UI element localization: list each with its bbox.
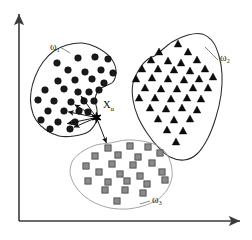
data-point-triangle <box>193 56 201 63</box>
data-point-circle <box>82 69 89 76</box>
data-point-triangle <box>148 74 156 81</box>
data-point-square <box>124 178 130 184</box>
omega3-leader <box>140 201 150 204</box>
cluster-scatter-plot: ω₁ω₂ω₃Xu <box>0 0 252 240</box>
data-point-circle <box>110 70 117 77</box>
data-point-circle <box>51 98 58 105</box>
data-point-triangle <box>201 65 209 72</box>
class-label-omega1: ω₁ <box>50 41 60 52</box>
data-point-circle <box>55 119 62 126</box>
data-point-circle <box>47 126 54 133</box>
data-point-triangle <box>178 104 186 111</box>
data-point-circle <box>68 99 75 106</box>
query-point-label: Xu <box>103 99 115 113</box>
data-point-triangle <box>180 76 188 83</box>
data-point-circle <box>101 80 108 87</box>
data-point-triangle <box>170 66 178 73</box>
data-point-triangle <box>172 138 180 145</box>
data-point-circle <box>75 89 82 96</box>
class-label-omega3: ω₃ <box>152 194 162 205</box>
neighbor-arrow-4 <box>67 118 96 124</box>
neighbor-arrow-6 <box>97 118 107 144</box>
data-point-triangle <box>146 104 154 111</box>
data-point-triangle <box>184 48 192 55</box>
data-point-circle <box>35 97 42 104</box>
data-point-triangle <box>179 127 187 134</box>
data-point-square <box>130 162 136 168</box>
data-point-circle <box>91 98 98 105</box>
data-point-circle <box>98 67 105 74</box>
data-point-triangle <box>183 94 191 101</box>
data-point-square <box>145 144 151 150</box>
data-point-triangle <box>195 75 203 82</box>
data-point-square <box>115 152 121 158</box>
data-point-triangle <box>157 85 165 92</box>
query-point-label-subscript: u <box>111 105 115 113</box>
data-point-circle <box>65 67 72 74</box>
omega1-leader <box>60 47 70 53</box>
data-point-triangle <box>132 75 140 82</box>
data-point-square <box>92 153 98 159</box>
data-point-square <box>157 150 163 156</box>
data-point-triangle <box>154 115 162 122</box>
data-point-circle <box>42 87 49 94</box>
data-point-triangle <box>186 115 194 122</box>
data-point-circle <box>92 54 99 61</box>
data-point-triangle <box>186 67 194 74</box>
data-point-triangle <box>193 106 201 113</box>
data-point-circle <box>105 56 112 63</box>
data-point-triangle <box>189 84 197 91</box>
data-point-triangle <box>147 56 155 63</box>
data-point-triangle <box>164 57 172 64</box>
data-points <box>35 40 217 204</box>
series-1-points <box>35 54 117 133</box>
data-point-triangle <box>177 59 185 66</box>
data-point-square <box>114 198 120 204</box>
data-point-square <box>105 145 111 151</box>
data-point-circle <box>61 86 68 93</box>
class-label-omega2: ω₂ <box>220 52 230 63</box>
data-point-square <box>149 160 155 166</box>
data-point-square <box>109 161 115 167</box>
data-point-circle <box>45 108 52 115</box>
data-point-triangle <box>151 94 159 101</box>
data-point-triangle <box>154 65 162 72</box>
data-point-triangle <box>155 48 163 55</box>
data-point-circle <box>89 76 96 83</box>
data-point-circle <box>67 126 74 133</box>
data-point-square <box>105 179 111 185</box>
data-point-circle <box>54 60 61 67</box>
data-point-circle <box>55 78 62 85</box>
data-point-square <box>96 169 102 175</box>
omega2-leader <box>205 47 218 60</box>
figure-canvas: ω₁ω₂ω₃Xu <box>0 0 252 240</box>
data-point-square <box>102 187 108 193</box>
data-point-triangle <box>197 95 205 102</box>
data-point-triangle <box>163 126 171 133</box>
data-point-square <box>140 190 146 196</box>
data-point-triangle <box>204 84 212 91</box>
data-point-triangle <box>170 116 178 123</box>
data-point-triangle <box>135 94 143 101</box>
data-point-triangle <box>209 73 217 80</box>
data-point-circle <box>61 108 68 115</box>
data-point-circle <box>86 89 93 96</box>
data-point-square <box>162 177 168 183</box>
data-point-triangle <box>173 85 181 92</box>
data-point-triangle <box>162 105 170 112</box>
data-point-circle <box>75 55 82 62</box>
data-point-square <box>83 163 89 169</box>
data-point-triangle <box>174 40 182 47</box>
data-point-circle <box>38 117 45 124</box>
data-point-square <box>135 154 141 160</box>
data-point-square <box>127 143 133 149</box>
data-point-circle <box>72 77 79 84</box>
data-point-triangle <box>164 75 172 82</box>
data-point-triangle <box>141 84 149 91</box>
data-point-square <box>144 181 150 187</box>
data-point-square <box>122 187 128 193</box>
data-point-triangle <box>167 95 175 102</box>
data-point-square <box>159 169 165 175</box>
data-point-square <box>117 171 123 177</box>
data-point-circle <box>96 87 103 94</box>
